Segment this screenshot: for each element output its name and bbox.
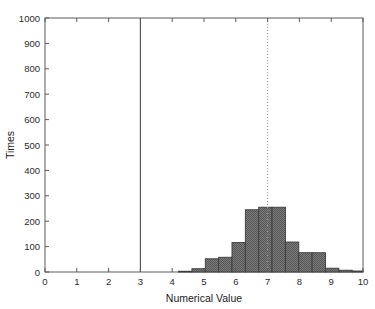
y-tick-label: 800 xyxy=(24,63,40,74)
histogram-bar xyxy=(312,253,325,272)
histogram-bar xyxy=(352,271,363,272)
histogram-bar xyxy=(325,268,338,272)
chart-canvas: 012345678910 010020030040050060070080090… xyxy=(0,0,375,309)
histogram-figure: 012345678910 010020030040050060070080090… xyxy=(0,0,375,309)
x-tick-label: 0 xyxy=(42,276,47,287)
x-tick-label: 1 xyxy=(74,276,79,287)
histogram-bar xyxy=(232,243,245,272)
histogram-bar xyxy=(205,259,218,272)
y-tick-label: 400 xyxy=(24,165,40,176)
y-tick-label: 500 xyxy=(24,140,40,151)
histogram-bar xyxy=(299,253,312,272)
y-tick-label: 0 xyxy=(35,267,40,278)
histogram-bar xyxy=(272,207,285,272)
x-tick-label: 3 xyxy=(138,276,143,287)
histogram-bar xyxy=(245,210,258,272)
x-tick-label: 8 xyxy=(297,276,302,287)
histogram-bar xyxy=(192,269,205,272)
y-tick-label: 300 xyxy=(24,190,40,201)
y-tick-label: 100 xyxy=(24,241,40,252)
y-tick-label: 900 xyxy=(24,38,40,49)
histogram-bar xyxy=(339,270,352,272)
y-tick-label: 700 xyxy=(24,89,40,100)
histogram-bar xyxy=(219,257,232,272)
x-axis-title: Numerical Value xyxy=(166,292,242,304)
histogram-bar xyxy=(259,207,272,272)
x-tick-label: 4 xyxy=(170,276,175,287)
x-tick-label: 6 xyxy=(233,276,238,287)
y-tick-label: 200 xyxy=(24,216,40,227)
x-tick-label: 5 xyxy=(201,276,206,287)
y-tick-label: 1000 xyxy=(19,13,40,24)
y-tick-label: 600 xyxy=(24,114,40,125)
histogram-bar xyxy=(179,271,192,272)
y-axis-title: Times xyxy=(4,131,16,159)
x-tick-label: 9 xyxy=(329,276,334,287)
x-tick-label: 7 xyxy=(265,276,270,287)
histogram-bar xyxy=(285,242,298,272)
x-tick-label: 2 xyxy=(106,276,111,287)
x-tick-label: 10 xyxy=(358,276,369,287)
